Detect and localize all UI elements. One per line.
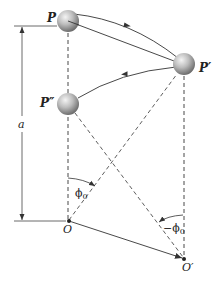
dashed-line-Pdoubleprime-Oprime bbox=[75, 113, 183, 257]
label-Oprime: O′ bbox=[182, 261, 194, 274]
neg-phi0-arc bbox=[159, 215, 183, 222]
label-Pprime: P′ bbox=[198, 61, 212, 75]
displacement-P-Pprime bbox=[68, 21, 182, 64]
pendulum-diagram: a ϕ0 −ϕ0 O O′ P P′ P″ bbox=[0, 0, 221, 283]
arc-P-to-Pprime bbox=[74, 14, 178, 58]
label-phi0: ϕ0 bbox=[75, 187, 88, 201]
label-O: O bbox=[63, 223, 72, 236]
sphere-Pprime bbox=[173, 53, 195, 75]
label-Pdoubleprime: P″ bbox=[39, 96, 55, 110]
label-a: a bbox=[18, 118, 25, 131]
label-neg-phi0: −ϕ0 bbox=[163, 222, 185, 236]
sphere-Pdoubleprime bbox=[57, 93, 79, 115]
phi0-arc bbox=[68, 178, 95, 186]
dimension-a: a bbox=[14, 26, 66, 221]
label-P: P bbox=[46, 11, 57, 25]
